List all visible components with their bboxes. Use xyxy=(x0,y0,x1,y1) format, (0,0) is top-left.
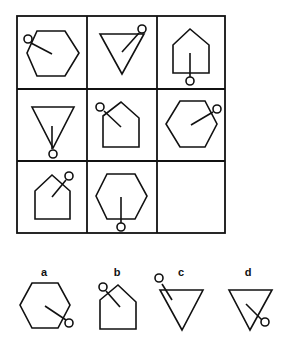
option-c[interactable] xyxy=(155,274,203,330)
option-b-label: b xyxy=(107,266,127,278)
cell-r3c1-pentagon xyxy=(35,172,73,219)
cell-r1c3-pentagon xyxy=(173,29,209,85)
cell-r1c1-hexagon xyxy=(24,31,79,76)
option-a-label: a xyxy=(34,266,54,278)
cell-r1c2-triangle xyxy=(100,25,146,74)
cell-r2c3-hexagon xyxy=(166,101,221,147)
cell-r3c3-empty[interactable] xyxy=(158,162,224,232)
option-d[interactable] xyxy=(229,290,272,330)
option-c-label: c xyxy=(171,266,191,278)
cell-r2c2-pentagon xyxy=(96,102,139,147)
option-d-label: d xyxy=(238,266,258,278)
option-a[interactable] xyxy=(20,283,73,328)
puzzle-grid xyxy=(0,0,287,349)
option-b[interactable] xyxy=(99,283,136,329)
cell-r2c1-triangle xyxy=(32,107,74,158)
cell-r3c2-hexagon xyxy=(96,174,147,231)
